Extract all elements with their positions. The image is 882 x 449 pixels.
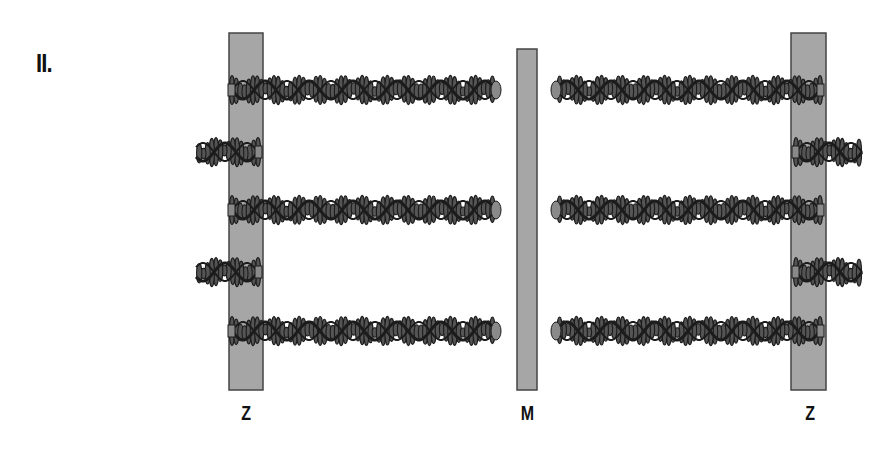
thin-filament-right-1 (551, 75, 824, 104)
thin-filament-right-2 (551, 195, 824, 224)
filament-anchor (255, 146, 262, 158)
filament-cap (491, 201, 501, 219)
filament-anchor (792, 266, 799, 278)
thin-filament-left-1 (228, 75, 501, 104)
z-line-label-right: Z (805, 402, 815, 425)
filament-anchor (228, 84, 235, 96)
thin-filament-left-2 (228, 195, 501, 224)
filament-anchor (792, 146, 799, 158)
filament-cap (491, 322, 501, 340)
m-line-label: M (521, 402, 534, 425)
filament-cap (551, 322, 561, 340)
filament-anchor (817, 84, 824, 96)
thin-filament-right-3 (551, 316, 824, 345)
filament-anchor (255, 266, 262, 278)
filament-anchor (817, 325, 824, 337)
m-line-bar (517, 49, 537, 390)
thin-filament-left-3 (228, 316, 501, 345)
filament-anchor (228, 204, 235, 216)
filament-anchor (228, 325, 235, 337)
filament-cap (551, 81, 561, 99)
filament-cap (491, 81, 501, 99)
z-line-label-left: Z (241, 402, 251, 425)
filament-anchor (817, 204, 824, 216)
sarcomere-diagram (0, 0, 882, 449)
filament-cap (551, 201, 561, 219)
